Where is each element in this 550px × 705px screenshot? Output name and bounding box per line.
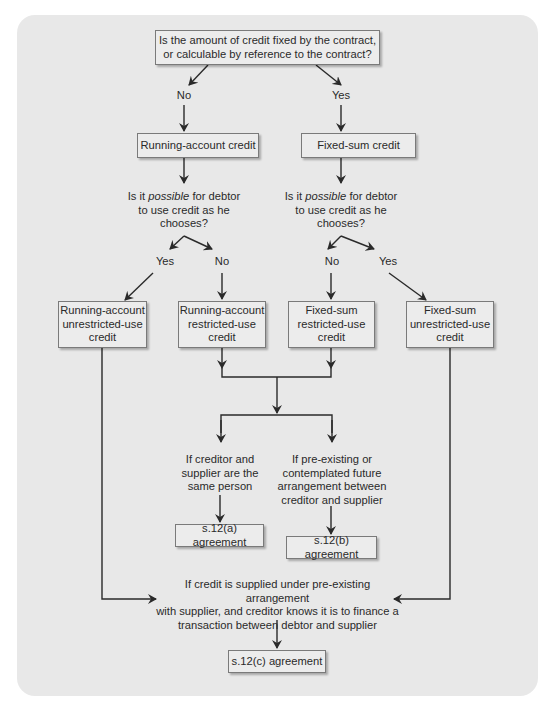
question-right: Is it possible for debtor to use credit … [281, 190, 401, 231]
right-yes-label: Yes [373, 255, 403, 267]
condition-supplied: If credit is supplied under pre-existing… [155, 578, 400, 632]
condition-same-person: If creditor and supplier are the same pe… [170, 453, 270, 494]
condition-arrangement: If pre-existing or contemplated future a… [276, 453, 388, 507]
right-no-label: No [318, 255, 346, 267]
s12c-agreement-box: s.12(c) agreement [228, 650, 326, 673]
fixed-sum-credit-box: Fixed-sum credit [301, 133, 416, 158]
root-question-box: Is the amount of credit fixed by the con… [155, 30, 380, 65]
fs-restricted-box: Fixed-sum restricted-use credit [288, 301, 375, 348]
s12b-agreement-box: s.12(b) agreement [286, 536, 377, 559]
left-no-label: No [208, 255, 236, 267]
root-yes-label: Yes [326, 89, 356, 101]
running-account-credit-box: Running-account credit [137, 133, 259, 158]
s12a-agreement-box: s.12(a) agreement [175, 524, 264, 547]
left-yes-label: Yes [150, 255, 180, 267]
question-left: Is it possible for debtor to use credit … [124, 190, 244, 231]
ra-restricted-box: Running-account restricted-use credit [178, 301, 266, 348]
ra-unrestricted-box: Running-account unrestricted-use credit [58, 301, 147, 348]
root-no-label: No [170, 89, 198, 101]
fs-unrestricted-box: Fixed-sum unrestricted-use credit [406, 301, 494, 348]
